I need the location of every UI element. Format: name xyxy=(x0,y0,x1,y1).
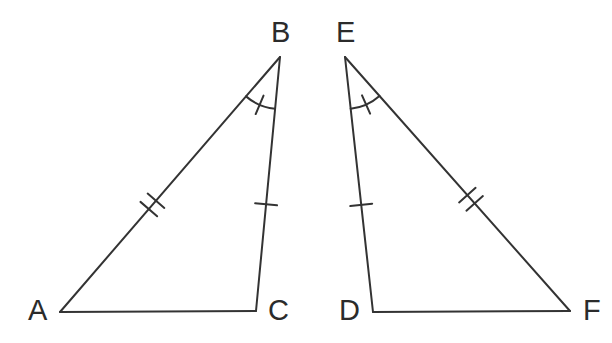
vertex-label-d: D xyxy=(339,296,360,325)
angle-b-arc-tick xyxy=(256,96,264,114)
svg-shapes-group xyxy=(60,57,570,312)
side-bc-tick xyxy=(255,203,277,205)
side-ef xyxy=(345,57,570,311)
vertex-label-a: A xyxy=(28,296,47,325)
side-fd xyxy=(373,311,570,312)
vertex-label-b: B xyxy=(271,18,290,47)
side-de-tick xyxy=(350,204,372,206)
triangles-svg-canvas xyxy=(0,0,612,343)
side-ab-tick xyxy=(140,202,157,216)
geometry-figure: ABCDEF xyxy=(0,0,612,343)
triangle-abc xyxy=(60,57,280,312)
side-ab xyxy=(60,57,280,312)
triangle-def xyxy=(345,57,570,312)
side-ab-tick xyxy=(148,194,165,208)
side-de xyxy=(345,57,373,312)
angle-e-arc-tick xyxy=(362,95,370,113)
side-bc xyxy=(256,57,280,311)
vertex-label-e: E xyxy=(336,18,355,47)
vertex-label-f: F xyxy=(583,296,601,325)
vertex-label-c: C xyxy=(268,296,289,325)
side-ca xyxy=(60,311,256,312)
